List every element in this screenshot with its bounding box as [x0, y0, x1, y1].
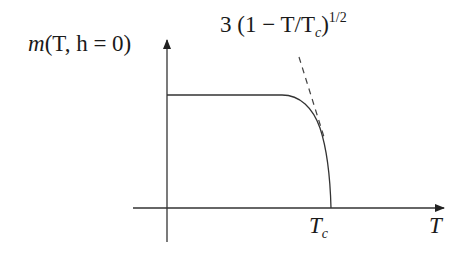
- magnetization-diagram: m(T, h = 0) 3 (1 − T/Tc)1/2 Tc T: [0, 0, 475, 253]
- y-axis-label-args: (T, h = 0): [45, 31, 132, 56]
- y-axis-label: m(T, h = 0): [28, 32, 131, 55]
- x-axis-label: T: [429, 214, 442, 237]
- asymptote-dashed-line: [299, 57, 324, 137]
- asymptote-formula: 3 (1 − T/Tc)1/2: [220, 11, 347, 40]
- magnetization-curve: [167, 95, 331, 208]
- critical-temperature-label: Tc: [309, 214, 328, 241]
